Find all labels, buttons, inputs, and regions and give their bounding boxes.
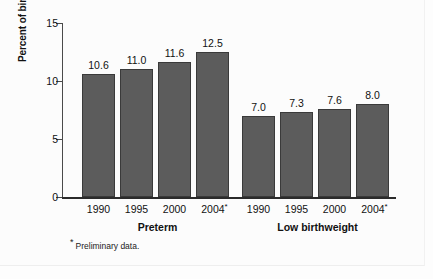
x-tick-text: 2000 (323, 203, 346, 215)
x-tick-text: 1990 (247, 203, 270, 215)
x-tick-text: 1990 (87, 203, 110, 215)
x-tick-text: 1995 (125, 203, 148, 215)
x-axis-line (62, 197, 396, 199)
y-tick-label: 10 (46, 73, 58, 89)
bar-lbw-1995 (280, 112, 313, 197)
bar-preterm-2000 (158, 62, 191, 197)
bar-value-label: 12.5 (202, 37, 222, 49)
bar-value-label: 7.0 (251, 101, 266, 113)
x-tick-label-preterm-1995: 1995 (120, 203, 153, 216)
x-tick-text: 2004 (361, 203, 384, 215)
bar-value-label: 7.3 (289, 97, 304, 109)
bar-column: 11.6 (158, 23, 191, 197)
y-tick-label: 5 (52, 131, 58, 147)
group-label-preterm: Preterm (82, 221, 233, 233)
bar-value-label: 10.6 (88, 59, 108, 71)
bar-column: 8.0 (356, 23, 389, 197)
bar-column: 10.6 (82, 23, 115, 197)
y-tick-label: 15 (46, 15, 58, 31)
y-tick-label: 0 (52, 189, 58, 205)
bar-column: 7.3 (280, 23, 313, 197)
bar-column: 12.5 (196, 23, 229, 197)
bar-preterm-1995 (120, 69, 153, 197)
bar-value-label: 11.6 (165, 47, 185, 59)
bar-lbw-2000 (318, 109, 351, 197)
x-tick-label-preterm-1990: 1990 (82, 203, 115, 216)
x-tick-label-lbw-1990: 1990 (242, 203, 275, 216)
x-tick-label-preterm-2004: 2004* (196, 203, 233, 216)
footnote-text: Preliminary data. (76, 241, 140, 251)
x-tick-text: 2004 (201, 203, 224, 215)
bar-lbw-1990 (242, 116, 275, 197)
x-tick-label-lbw-1995: 1995 (280, 203, 313, 216)
bar-column: 7.6 (318, 23, 351, 197)
x-tick-text: 2000 (163, 203, 186, 215)
x-tick-label-preterm-2000: 2000 (158, 203, 191, 216)
footnote-marker: * (70, 237, 74, 247)
x-tick-text: 1995 (285, 203, 308, 215)
bar-chart-figure: Percent of births 15 10 5 0 10.6 11.0 (0, 0, 433, 279)
y-axis-line (62, 23, 63, 197)
x-tick-label-lbw-2000: 2000 (318, 203, 351, 216)
bar-preterm-2004 (196, 52, 229, 197)
bar-value-label: 11.0 (127, 54, 147, 66)
footnote-marker: * (385, 202, 388, 211)
x-tick-label-lbw-2004: 2004* (356, 203, 393, 216)
bar-column: 7.0 (242, 23, 275, 197)
bar-value-label: 8.0 (365, 89, 380, 101)
bar-value-label: 7.6 (327, 94, 342, 106)
group-label-low-birthweight: Low birthweight (242, 221, 393, 233)
bar-column: 11.0 (120, 23, 153, 197)
bar-lbw-2004 (356, 104, 389, 197)
plot-area: 15 10 5 0 10.6 11.0 11.6 12.5 (62, 23, 396, 197)
y-axis-title: Percent of births (17, 46, 28, 62)
footnote-marker: * (225, 202, 228, 211)
footnote: *Preliminary data. (70, 241, 139, 252)
bar-preterm-1990 (82, 74, 115, 197)
